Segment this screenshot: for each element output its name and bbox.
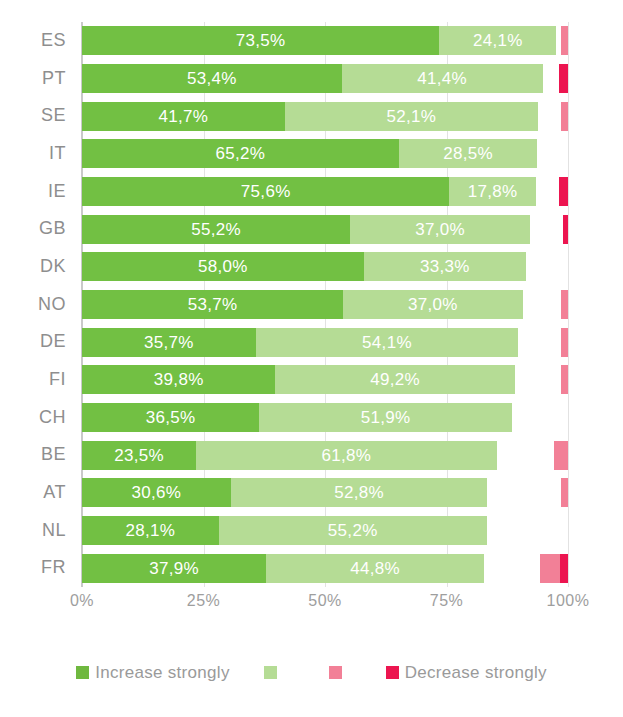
bar-segment-decrease[interactable]: [554, 441, 568, 470]
bar-segment-decrease[interactable]: [561, 102, 568, 131]
bar-segment-decrease[interactable]: [561, 328, 568, 357]
bar-segment-increase-strongly[interactable]: 39,8%: [82, 365, 275, 394]
legend-item-1[interactable]: [264, 666, 277, 679]
category-label-gb: GB: [39, 219, 66, 237]
bar-segment-decrease-strongly[interactable]: [563, 215, 568, 244]
category-label-it: IT: [49, 144, 66, 162]
bar-segment-decrease[interactable]: [561, 478, 568, 507]
legend-item-0[interactable]: Increase strongly: [76, 664, 230, 681]
bar-row[interactable]: 73,5%24,1%: [82, 26, 568, 55]
bar-value-label: 24,1%: [473, 32, 523, 49]
category-label-de: DE: [40, 332, 66, 350]
bar-value-label: 55,2%: [328, 522, 378, 539]
legend-item-2[interactable]: [329, 666, 342, 679]
bar-value-label: 37,0%: [415, 221, 465, 238]
legend-label: Decrease strongly: [405, 664, 547, 681]
bar-segment-increase-strongly[interactable]: 58,0%: [82, 252, 364, 281]
bar-segment-increase[interactable]: 49,2%: [275, 365, 514, 394]
bar-segment-increase-strongly[interactable]: 73,5%: [82, 26, 439, 55]
bar-segment-decrease-strongly[interactable]: [559, 177, 568, 206]
bar-segment-increase[interactable]: 17,8%: [449, 177, 536, 206]
bar-segment-gap: [484, 554, 540, 583]
bar-value-label: 28,5%: [443, 145, 493, 162]
bar-segment-increase[interactable]: 24,1%: [439, 26, 556, 55]
bar-row[interactable]: 37,9%44,8%: [82, 554, 568, 583]
bar-segment-decrease-strongly[interactable]: [560, 554, 568, 583]
category-label-se: SE: [41, 106, 66, 124]
legend-label: Increase strongly: [95, 664, 230, 681]
bar-segment-increase[interactable]: 52,1%: [285, 102, 538, 131]
category-label-be: BE: [41, 445, 66, 463]
category-label-nl: NL: [42, 521, 66, 539]
bar-row[interactable]: 39,8%49,2%: [82, 365, 568, 394]
bar-segment-increase[interactable]: 55,2%: [219, 516, 487, 545]
bar-segment-increase-strongly[interactable]: 30,6%: [82, 478, 231, 507]
category-label-fr: FR: [41, 558, 66, 576]
bar-segment-increase-strongly[interactable]: 53,7%: [82, 290, 343, 319]
bar-row[interactable]: 35,7%54,1%: [82, 328, 568, 357]
bar-row[interactable]: 28,1%55,2%: [82, 516, 568, 545]
bar-row[interactable]: 23,5%61,8%: [82, 441, 568, 470]
bar-segment-decrease[interactable]: [561, 365, 568, 394]
bar-segment-increase[interactable]: 37,0%: [343, 290, 523, 319]
legend-swatch-icon: [386, 666, 399, 679]
bar-segment-increase[interactable]: 51,9%: [259, 403, 511, 432]
stacked-bar-chart: ESPTSEITIEGBDKNODEFICHBEATNLFR 73,5%24,1…: [0, 0, 623, 717]
bar-segment-increase-strongly[interactable]: 53,4%: [82, 64, 342, 93]
chart-legend: Increase stronglyDecrease strongly: [0, 655, 623, 689]
bar-value-label: 52,8%: [334, 484, 384, 501]
bar-segment-increase-strongly[interactable]: 75,6%: [82, 177, 449, 206]
value-tick-100: 100%: [547, 592, 590, 610]
category-label-ie: IE: [48, 182, 66, 200]
bar-segment-increase[interactable]: 28,5%: [399, 139, 538, 168]
bar-row[interactable]: 53,4%41,4%: [82, 64, 568, 93]
legend-swatch-icon: [329, 666, 342, 679]
bar-value-label: 17,8%: [468, 183, 518, 200]
value-tick-75: 75%: [430, 592, 464, 610]
bar-segment-increase[interactable]: 44,8%: [266, 554, 484, 583]
bar-value-label: 37,9%: [149, 560, 199, 577]
bar-value-label: 61,8%: [322, 447, 372, 464]
bar-value-label: 44,8%: [350, 560, 400, 577]
bar-segment-gap: [487, 478, 561, 507]
bar-segment-increase[interactable]: 33,3%: [364, 252, 526, 281]
bar-segment-increase[interactable]: 61,8%: [196, 441, 496, 470]
bar-row[interactable]: 36,5%51,9%: [82, 403, 568, 432]
bar-value-label: 37,0%: [408, 296, 458, 313]
bar-segment-increase-strongly[interactable]: 41,7%: [82, 102, 285, 131]
bar-row[interactable]: 41,7%52,1%: [82, 102, 568, 131]
bar-segment-increase[interactable]: 54,1%: [256, 328, 519, 357]
bar-segment-decrease-strongly[interactable]: [559, 64, 568, 93]
bar-segment-increase[interactable]: 37,0%: [350, 215, 530, 244]
gridline-100: [568, 22, 569, 587]
bar-value-label: 39,8%: [154, 371, 204, 388]
bar-segment-increase[interactable]: 41,4%: [342, 64, 543, 93]
bar-row[interactable]: 75,6%17,8%: [82, 177, 568, 206]
bar-value-label: 73,5%: [236, 32, 286, 49]
bar-segment-decrease[interactable]: [561, 26, 568, 55]
bar-row[interactable]: 53,7%37,0%: [82, 290, 568, 319]
bar-row[interactable]: 30,6%52,8%: [82, 478, 568, 507]
bar-row[interactable]: 65,2%28,5%: [82, 139, 568, 168]
bar-segment-decrease[interactable]: [540, 554, 560, 583]
bar-segment-increase-strongly[interactable]: 36,5%: [82, 403, 259, 432]
bar-segment-increase-strongly[interactable]: 37,9%: [82, 554, 266, 583]
category-label-pt: PT: [42, 69, 66, 87]
bar-segment-increase-strongly[interactable]: 28,1%: [82, 516, 219, 545]
bar-value-label: 28,1%: [125, 522, 175, 539]
plot-area: ESPTSEITIEGBDKNODEFICHBEATNLFR 73,5%24,1…: [0, 22, 623, 587]
bar-segment-increase-strongly[interactable]: 55,2%: [82, 215, 350, 244]
bar-value-label: 53,7%: [188, 296, 238, 313]
bar-segment-decrease[interactable]: [561, 290, 568, 319]
legend-swatch-icon: [264, 666, 277, 679]
legend-item-3[interactable]: Decrease strongly: [386, 664, 547, 681]
category-label-fi: FI: [49, 370, 66, 388]
bar-segment-increase-strongly[interactable]: 65,2%: [82, 139, 399, 168]
bar-value-label: 58,0%: [198, 258, 248, 275]
bar-segment-increase-strongly[interactable]: 23,5%: [82, 441, 196, 470]
bar-segment-increase[interactable]: 52,8%: [231, 478, 488, 507]
bar-row[interactable]: 58,0%33,3%: [82, 252, 568, 281]
bar-row[interactable]: 55,2%37,0%: [82, 215, 568, 244]
bar-value-label: 41,7%: [158, 108, 208, 125]
bar-segment-increase-strongly[interactable]: 35,7%: [82, 328, 256, 357]
